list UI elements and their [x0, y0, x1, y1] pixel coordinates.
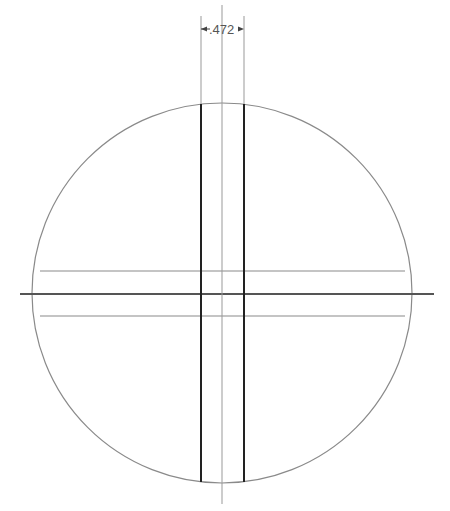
dimension-label: .472 — [209, 22, 234, 37]
dimension-arrow-right-icon — [238, 27, 244, 32]
dimension-arrow-left-icon — [201, 27, 207, 32]
cad-drawing: .472 — [0, 0, 450, 511]
